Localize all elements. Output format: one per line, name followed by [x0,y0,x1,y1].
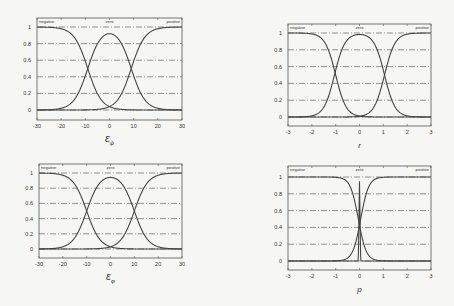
y-tick-label: 1 [279,30,282,36]
x-tick-label: 3 [429,273,432,279]
y-tick-label: 0.4 [23,74,31,80]
membership-curve-positive [288,33,431,117]
x-axis-label: εφ [106,270,115,284]
y-tick-label: 0.8 [274,191,282,197]
x-tick-label: 0 [358,273,361,279]
y-tick-label: 0 [279,114,282,120]
y-tick-label: 0 [279,258,282,264]
y-tick-label: 0.8 [274,47,282,53]
x-tick-label: 1 [382,273,385,279]
label-zero: zero [356,25,365,30]
x-tick-label: 2 [406,273,409,279]
plot-frame [39,164,182,258]
x-tick-label: -2 [309,273,314,279]
x-axis-label: εψ [105,132,115,146]
x-tick-label: 0 [108,123,111,129]
membership-curve-positive [39,173,182,249]
label-negative: negative [290,25,306,30]
y-tick-label: 0.6 [23,57,31,63]
label-zero: zero [107,165,116,170]
x-tick-label: -10 [81,123,89,129]
y-tick-label: 0.4 [25,216,33,222]
membership-curve-zero [37,34,182,110]
membership-curve-zero [288,34,431,117]
y-tick-label: 0 [28,107,31,113]
x-tick-label: 30 [179,123,185,129]
y-tick-label: 0.8 [25,185,33,191]
x-tick-label: -30 [33,123,41,129]
x-tick-label: 3 [429,129,432,135]
label-positive: positive [415,167,429,172]
x-tick-label: 1 [382,129,385,135]
label-negative: negative [39,19,55,24]
x-tick-label: -3 [286,273,291,279]
plot-frame [288,24,431,126]
label-positive: positive [166,19,180,24]
y-tick-label: 1 [279,174,282,180]
label-zero: zero [356,167,365,172]
y-tick-label: 0 [30,246,33,252]
x-tick-label: 2 [406,129,409,135]
x-tick-label: -1 [333,129,338,135]
x-tick-label: -20 [57,123,65,129]
y-tick-label: 0.6 [274,208,282,214]
membership-curve-positive [37,27,182,110]
x-tick-label: 10 [131,123,137,129]
y-tick-label: 0.2 [23,90,31,96]
x-tick-label: -20 [59,261,67,267]
y-tick-label: 0.6 [25,200,33,206]
y-tick-label: 0.8 [23,41,31,47]
x-axis-label: p [356,285,362,294]
y-tick-label: 1 [30,170,33,176]
y-tick-label: 0.4 [274,80,282,86]
y-tick-label: 0.6 [274,64,282,70]
x-tick-label: 20 [155,123,161,129]
y-tick-label: 0.4 [274,224,282,230]
x-tick-label: 0 [109,261,112,267]
x-tick-label: 30 [179,261,185,267]
x-tick-label: -30 [35,261,43,267]
x-tick-label: -10 [83,261,91,267]
x-tick-label: 10 [131,261,137,267]
membership-curve-negative [39,173,182,249]
label-zero: zero [106,19,115,24]
x-tick-label: 0 [358,129,361,135]
x-tick-label: 20 [155,261,161,267]
membership-curve-negative [288,33,431,117]
x-tick-label: -3 [286,129,291,135]
plot-top-right: 00.20.40.60.81-3-2-10123negativezeroposi… [250,0,454,150]
label-positive: positive [415,25,429,30]
y-tick-label: 0.2 [25,231,33,237]
plot-bottom-left: 00.20.40.60.81-30-20-100102030negativeze… [0,150,200,306]
membership-curve-zero [288,181,431,261]
y-tick-label: 0.2 [274,241,282,247]
x-tick-label: -1 [333,273,338,279]
plot-top-left: 00.20.40.60.81-30-20-100102030negativeze… [0,0,200,150]
y-tick-label: 1 [28,24,31,30]
membership-curve-negative [37,27,182,110]
x-axis-label: r [358,141,361,150]
label-negative: negative [41,165,57,170]
x-tick-label: -2 [309,129,314,135]
label-negative: negative [290,167,306,172]
label-positive: positive [166,165,180,170]
y-tick-label: 0.2 [274,97,282,103]
plot-bottom-right: 00.20.40.60.81-3-2-10123negativezeroposi… [250,150,454,306]
